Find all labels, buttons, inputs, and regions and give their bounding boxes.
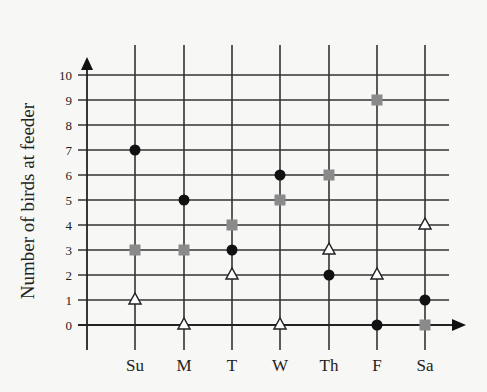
circle-marker (275, 170, 286, 181)
axes (78, 57, 466, 350)
circle-marker (324, 270, 335, 281)
circle-marker (420, 295, 431, 306)
y-tick-label: 8 (66, 118, 73, 133)
y-axis-arrow-icon (81, 57, 93, 70)
y-tick-labels: 012345678910 (59, 68, 73, 333)
triangle-marker (371, 268, 383, 279)
y-tick-label: 9 (66, 93, 73, 108)
x-tick-label: Sa (417, 356, 434, 375)
triangle-marker (323, 243, 335, 254)
triangle-marker (129, 293, 141, 304)
square-marker (372, 95, 383, 106)
circle-marker (372, 320, 383, 331)
triangle-marker (226, 268, 238, 279)
square-marker (130, 245, 141, 256)
y-tick-label: 6 (66, 168, 73, 183)
triangle-marker (419, 218, 431, 229)
y-tick-label: 7 (66, 143, 73, 158)
x-tick-label: Su (126, 356, 144, 375)
square-marker (324, 170, 335, 181)
x-tick-label: Th (320, 356, 339, 375)
y-tick-label: 0 (66, 318, 73, 333)
square-marker (179, 245, 190, 256)
circle-marker (179, 195, 190, 206)
x-tick-label: F (372, 356, 381, 375)
square-marker (275, 195, 286, 206)
y-tick-label: 1 (66, 293, 73, 308)
circle-marker (227, 245, 238, 256)
triangle-marker (178, 318, 190, 329)
x-tick-labels: SuMTWThFSa (126, 356, 434, 375)
x-tick-label: M (176, 356, 191, 375)
triangle-marker (274, 318, 286, 329)
y-tick-label: 5 (66, 193, 73, 208)
x-axis-arrow-icon (452, 319, 466, 331)
x-tick-label: T (227, 356, 238, 375)
y-tick-label: 10 (59, 68, 72, 83)
x-tick-label: W (272, 356, 289, 375)
square-marker (227, 220, 238, 231)
square-marker (420, 320, 431, 331)
circle-marker (130, 145, 141, 156)
y-tick-label: 4 (66, 218, 73, 233)
scatter-chart: 012345678910 SuMTWThFSa (0, 0, 487, 392)
y-tick-label: 2 (66, 268, 73, 283)
y-tick-label: 3 (66, 243, 73, 258)
